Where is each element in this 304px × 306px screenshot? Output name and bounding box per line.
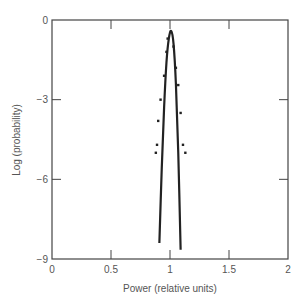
y-tick-label: −6 [37,174,49,185]
data-point [184,152,186,154]
data-point [166,37,168,39]
x-tick-label: 0.5 [104,264,118,275]
data-point [179,112,181,114]
fitted-curve [159,31,180,250]
x-tick-label: 1.5 [222,264,236,275]
y-tick-label: 0 [42,15,48,26]
x-tick-label: 2 [285,264,291,275]
axes-frame [52,20,288,259]
axis-ticks [52,20,288,259]
data-point [172,45,174,47]
x-tick-label: 0 [49,264,55,275]
data-point [177,84,179,86]
tick-labels: 00.511.520−3−6−9 [37,15,292,276]
y-tick-label: −3 [37,94,49,105]
data-series [155,31,187,250]
x-axis-label: Power (relative units) [123,283,217,294]
data-point [165,51,167,53]
chart: 00.511.520−3−6−9 Power (relative units) … [0,0,304,306]
data-point [156,144,158,146]
y-axis-label: Log (probability) [11,104,22,176]
data-point [182,144,184,146]
y-tick-label: −9 [37,254,49,265]
plot-area: 00.511.520−3−6−9 Power (relative units) … [0,0,304,306]
x-tick-label: 1 [167,264,173,275]
data-point [155,152,157,154]
axes-border [52,20,288,259]
data-point [163,75,165,77]
data-point [157,120,159,122]
data-point [159,98,161,100]
data-point [175,67,177,69]
